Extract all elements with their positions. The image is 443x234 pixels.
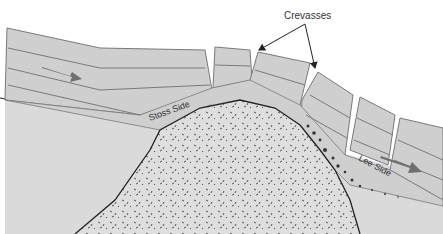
glacier-diagram: Crevasses Stoss Side Lee Side	[0, 0, 443, 234]
crevasses-label: Crevasses	[284, 10, 331, 21]
